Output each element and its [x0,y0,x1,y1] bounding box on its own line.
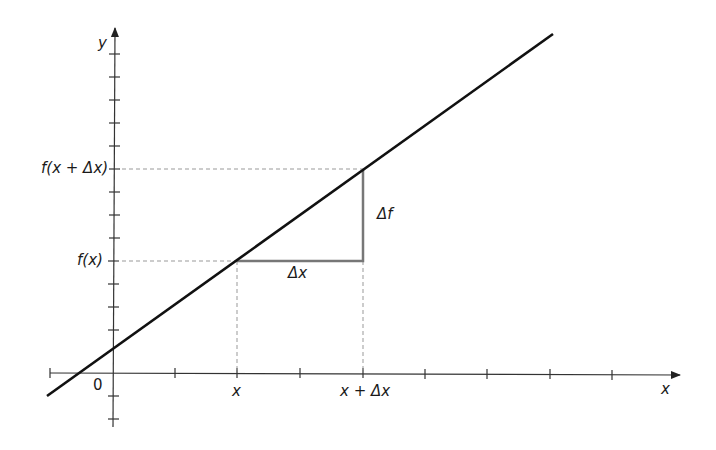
x-axis [50,368,680,380]
function-line [47,34,553,396]
delta-f-label: Δf [377,207,393,222]
y-axis-label: y [98,36,107,51]
guide-lines [115,169,363,373]
origin-label: 0 [93,378,103,393]
y-axis [108,28,120,427]
fx-plus-dx-label: f(x + Δx) [41,161,108,176]
delta-x-label: Δx [288,266,307,281]
x-plus-dx-label: x + Δx [340,384,390,399]
fx-label: f(x) [77,253,103,268]
x-axis-label: x [661,382,670,397]
x-point-label: x [232,384,241,399]
